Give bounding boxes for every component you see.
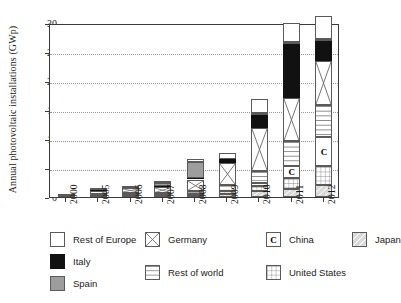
segment-rest-of-world xyxy=(283,141,300,165)
china-segment-label: C xyxy=(284,168,299,177)
x-tick-label: 2007 xyxy=(166,184,176,204)
grid-swatch-icon xyxy=(266,265,281,280)
segment-rest-of-europe xyxy=(187,159,204,162)
segment-rest-of-europe xyxy=(251,99,268,113)
plot-inner: CC xyxy=(50,25,338,197)
legend-item-spain: Spain xyxy=(50,276,97,291)
legend-label: Spain xyxy=(73,278,97,289)
legend-label: United States xyxy=(289,267,346,278)
bar-2011: C xyxy=(283,23,300,197)
x-tick-mark xyxy=(258,198,259,202)
legend-label: Italy xyxy=(73,256,90,267)
plot-area: CC xyxy=(49,24,339,198)
segment-rest-of-world xyxy=(315,105,332,137)
letter-c-swatch-icon: C xyxy=(266,232,281,247)
segment-china: C xyxy=(315,137,332,166)
x-tick-label: 2000 xyxy=(69,184,79,204)
segment-italy xyxy=(283,44,300,98)
x-tick-label: 2011 xyxy=(295,185,305,204)
bar-2010 xyxy=(251,99,268,197)
legend-china-glyph: C xyxy=(267,235,280,244)
diagonal-hatch-swatch-icon xyxy=(352,232,367,247)
x-tick-label: 2009 xyxy=(230,184,240,204)
legend-label: Germany xyxy=(168,234,207,245)
segment-rest-of-europe xyxy=(154,181,171,183)
segment-china: C xyxy=(283,166,300,179)
segment-united-states xyxy=(315,166,332,185)
legend-label: Rest of Europe xyxy=(73,234,136,245)
x-tick-mark xyxy=(97,198,98,202)
white-empty-swatch-icon xyxy=(50,232,65,247)
legend-item-rest-of-europe: Rest of Europe xyxy=(50,232,136,247)
x-tick-mark xyxy=(291,198,292,202)
segment-italy xyxy=(315,41,332,61)
solid-gray-swatch-icon xyxy=(50,276,65,291)
segment-germany xyxy=(315,61,332,105)
legend-item-china: C China xyxy=(266,232,314,247)
segment-germany xyxy=(251,128,268,171)
bar-2012: C xyxy=(315,16,332,197)
segment-spain xyxy=(283,42,300,44)
x-tick-mark xyxy=(323,198,324,202)
chart-legend: Rest of Europe Italy Spain Germany xyxy=(14,232,389,294)
horizontal-lines-swatch-icon xyxy=(145,265,160,280)
photovoltaic-installations-chart: Annual photovoltaic installations (GWp) … xyxy=(0,0,401,303)
x-tick-mark xyxy=(162,198,163,202)
segment-rest-of-world xyxy=(251,171,268,183)
legend-label: China xyxy=(289,234,314,245)
segment-italy xyxy=(219,159,236,163)
solid-black-swatch-icon xyxy=(50,254,65,269)
segment-spain xyxy=(251,113,268,115)
segment-rest-of-europe xyxy=(219,153,236,158)
x-tick-label: 2010 xyxy=(262,184,272,204)
x-tick-mark xyxy=(194,198,195,202)
segment-rest-of-europe xyxy=(283,23,300,42)
legend-item-germany: Germany xyxy=(145,232,207,247)
x-tick-label: 2008 xyxy=(198,184,208,204)
legend-item-japan: Japan xyxy=(352,232,401,247)
legend-item-united-states: United States xyxy=(266,265,346,280)
cross-box-swatch-icon xyxy=(145,232,160,247)
segment-spain xyxy=(187,162,204,178)
y-tick-mark xyxy=(45,198,49,199)
x-tick-mark xyxy=(130,198,131,202)
legend-label: Japan xyxy=(375,234,401,245)
x-tick-mark xyxy=(226,198,227,202)
segment-rest-of-europe xyxy=(315,16,332,39)
segment-italy xyxy=(251,115,268,128)
x-tick-label: 2006 xyxy=(134,184,144,204)
x-tick-label: 2012 xyxy=(327,184,337,204)
china-segment-label: C xyxy=(316,147,331,156)
legend-item-rest-of-world: Rest of world xyxy=(145,265,223,280)
segment-italy xyxy=(187,177,204,179)
legend-label: Rest of world xyxy=(168,267,223,278)
segment-germany xyxy=(219,163,236,185)
x-tick-mark xyxy=(65,198,66,202)
legend-item-italy: Italy xyxy=(50,254,90,269)
x-tick-label: 2005 xyxy=(101,184,111,204)
segment-germany xyxy=(283,98,300,142)
y-axis-label: Annual photovoltaic installations (GWp) xyxy=(7,10,18,210)
